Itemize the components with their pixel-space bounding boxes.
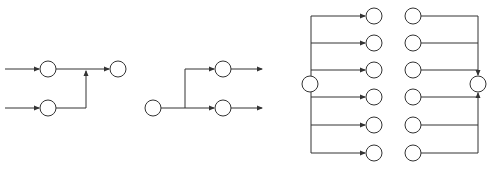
node-d5 xyxy=(405,117,421,133)
node-c2 xyxy=(366,35,382,51)
node-b2 xyxy=(215,61,231,77)
node-b3 xyxy=(215,100,231,116)
node-c5 xyxy=(366,117,382,133)
node-a3 xyxy=(110,61,126,77)
edge-b1-b2 xyxy=(185,69,214,108)
panel-fan-out xyxy=(302,8,382,161)
node-c6 xyxy=(366,145,382,161)
edge-a2-merge xyxy=(56,71,86,108)
node-d1 xyxy=(405,8,421,24)
node-c3 xyxy=(366,62,382,78)
node-c4 xyxy=(366,89,382,105)
panel-fan-in xyxy=(405,8,486,161)
node-a2 xyxy=(40,100,56,116)
node-d6 xyxy=(405,145,421,161)
node-d0 xyxy=(470,76,486,92)
panel-split-one-to-two xyxy=(145,61,262,116)
node-a1 xyxy=(40,61,56,77)
node-c1 xyxy=(366,8,382,24)
panel-merge-two-to-one xyxy=(5,61,126,116)
diagram-canvas xyxy=(0,0,495,173)
node-d4 xyxy=(405,89,421,105)
node-b1 xyxy=(145,100,161,116)
node-d2 xyxy=(405,35,421,51)
node-d3 xyxy=(405,62,421,78)
node-c0 xyxy=(302,76,318,92)
